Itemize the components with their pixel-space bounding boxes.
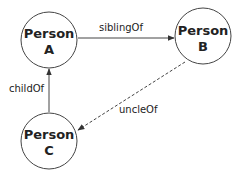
edge-label-siblingOf: siblingOf (99, 22, 143, 33)
node-label-line1: Person (24, 127, 75, 142)
node-label-line1: Person (178, 23, 229, 38)
node-person-b: Person B (175, 8, 231, 64)
node-label-line2: B (198, 39, 208, 54)
node-label-line1: Person (24, 26, 75, 41)
edge-childOf: childOf (9, 69, 49, 112)
node-label-line2: C (44, 143, 54, 158)
edge-uncleOf: uncleOf (78, 62, 185, 130)
relationship-diagram: siblingOf childOf uncleOf Person A Perso… (0, 0, 240, 174)
node-label-line2: A (44, 42, 54, 57)
edge-label-uncleOf: uncleOf (119, 104, 158, 115)
edge-label-childOf: childOf (9, 83, 45, 94)
node-person-c: Person C (21, 113, 77, 169)
node-person-a: Person A (21, 12, 77, 68)
edge-siblingOf: siblingOf (78, 22, 174, 38)
